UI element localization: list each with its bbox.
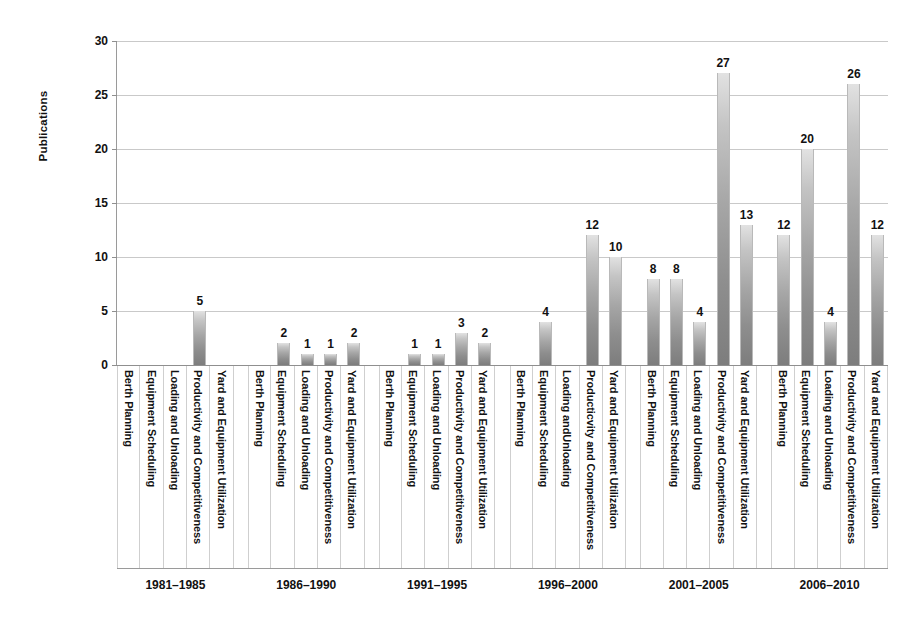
category-cell: Loading andUnloading bbox=[556, 366, 579, 568]
category-tick-label: Berth Planning bbox=[515, 370, 527, 447]
y-tick-label: 30 bbox=[95, 34, 108, 48]
category-cell: Yard and Equipment Utilization bbox=[603, 366, 626, 568]
category-cell: Equipment Scheduling bbox=[795, 366, 818, 568]
bar: 20 bbox=[801, 149, 814, 365]
bar: 8 bbox=[670, 279, 683, 365]
bar-value-label: 8 bbox=[673, 262, 680, 276]
period-label: 2006–2010 bbox=[771, 578, 888, 592]
category-cell: Berth Planning bbox=[117, 366, 140, 568]
category-cell: Berth Planning bbox=[379, 366, 402, 568]
y-tick-label: 15 bbox=[95, 196, 108, 210]
bar-value-label: 8 bbox=[650, 262, 657, 276]
y-tick-mark bbox=[112, 257, 117, 258]
category-tick-label: Producticvity and Competitiveness bbox=[585, 370, 597, 550]
y-tick-label: 5 bbox=[101, 304, 108, 318]
publications-bar-chart: Publications 051015202530 52112113241210… bbox=[0, 0, 898, 633]
category-tick-label: Loading andUnloading bbox=[561, 370, 573, 487]
category-cell: Loading and Unloading bbox=[425, 366, 448, 568]
bar-value-label: 4 bbox=[542, 305, 549, 319]
bar-value-label: 4 bbox=[827, 305, 834, 319]
bar-value-label: 2 bbox=[351, 326, 358, 340]
gridline bbox=[117, 41, 888, 42]
category-tick-label: Productivity and Competitiveness bbox=[716, 370, 728, 544]
bar: 12 bbox=[871, 235, 884, 365]
category-cell: Berth Planning bbox=[640, 366, 663, 568]
bar: 5 bbox=[193, 311, 206, 365]
category-tick-label: Loading and Unloading bbox=[431, 370, 443, 490]
bar: 12 bbox=[777, 235, 790, 365]
category-tick-label: Equipment Scheduling bbox=[800, 370, 812, 487]
bar: 3 bbox=[455, 333, 468, 365]
bar-value-label: 1 bbox=[411, 337, 418, 351]
category-tick-label: Yard and Equipment Utilization bbox=[870, 370, 882, 529]
period-label: 1986–1990 bbox=[248, 578, 365, 592]
category-tick-label: Berth Planning bbox=[384, 370, 396, 447]
category-tick-label: Berth Planning bbox=[646, 370, 658, 447]
bar: 1 bbox=[324, 354, 337, 365]
category-cell: Loading and Unloading bbox=[687, 366, 710, 568]
category-cell: Yard and Equipment Utilization bbox=[472, 366, 495, 568]
category-tick-label: Equipment Scheduling bbox=[146, 370, 158, 487]
bar: 4 bbox=[693, 322, 706, 365]
y-tick-mark bbox=[112, 95, 117, 96]
bar-value-label: 4 bbox=[696, 305, 703, 319]
category-label-band: Berth PlanningEquipment SchedulingLoadin… bbox=[117, 366, 888, 568]
period-label: 1981–1985 bbox=[117, 578, 234, 592]
bar-value-label: 1 bbox=[327, 337, 334, 351]
category-tick-label: Yard and Equipment Utilization bbox=[216, 370, 228, 529]
category-cell: Berth Planning bbox=[510, 366, 533, 568]
bar-value-label: 1 bbox=[435, 337, 442, 351]
category-tick-label: Berth Planning bbox=[123, 370, 135, 447]
y-tick-label: 10 bbox=[95, 250, 108, 264]
bar-value-label: 12 bbox=[871, 218, 884, 232]
bar: 12 bbox=[586, 235, 599, 365]
bar-value-label: 10 bbox=[609, 240, 622, 254]
bar-value-label: 2 bbox=[281, 326, 288, 340]
category-cell: Producticvity and Competitiveness bbox=[580, 366, 603, 568]
category-cell: Yard and Equipment Utilization bbox=[734, 366, 757, 568]
category-cell: Equipment Scheduling bbox=[140, 366, 163, 568]
category-tick-label: Productivity and Competitiveness bbox=[454, 370, 466, 544]
category-cell: Loading and Unloading bbox=[164, 366, 187, 568]
bar: 8 bbox=[647, 279, 660, 365]
bar: 13 bbox=[740, 225, 753, 365]
category-cell: Productivity and Competitiveness bbox=[841, 366, 864, 568]
category-tick-label: Loading and Unloading bbox=[300, 370, 312, 490]
label-band-bottom-rule bbox=[117, 568, 888, 569]
bar: 2 bbox=[347, 343, 360, 365]
category-cell: Equipment Scheduling bbox=[664, 366, 687, 568]
category-cell: Yard and Equipment Utilization bbox=[210, 366, 233, 568]
bar-value-label: 12 bbox=[777, 218, 790, 232]
category-cell: Productivity and Competitiveness bbox=[449, 366, 472, 568]
category-cell: Berth Planning bbox=[248, 366, 271, 568]
plot-area: 051015202530 521121132412108842713122042… bbox=[117, 41, 888, 365]
category-tick-label: Equipment Scheduling bbox=[669, 370, 681, 487]
bar-value-label: 12 bbox=[586, 218, 599, 232]
bar-value-label: 20 bbox=[801, 132, 814, 146]
category-tick-label: Productivity and Competitiveness bbox=[192, 370, 204, 544]
bar: 26 bbox=[847, 84, 860, 365]
gridline bbox=[117, 257, 888, 258]
category-tick-label: Productivity and Competitiveness bbox=[323, 370, 335, 544]
category-cell: Productivity and Competitiveness bbox=[710, 366, 733, 568]
bar-value-label: 1 bbox=[304, 337, 311, 351]
gridline bbox=[117, 203, 888, 204]
category-tick-label: Equipment Scheduling bbox=[407, 370, 419, 487]
category-tick-label: Yard and Equipment Utilization bbox=[346, 370, 358, 529]
y-tick-mark bbox=[112, 149, 117, 150]
period-label: 1996–2000 bbox=[510, 578, 627, 592]
bar-value-label: 3 bbox=[458, 316, 465, 330]
category-tick-label: Loading and Unloading bbox=[692, 370, 704, 490]
gridline bbox=[117, 149, 888, 150]
y-tick-label: 25 bbox=[95, 88, 108, 102]
y-tick-mark bbox=[112, 203, 117, 204]
category-tick-label: Productivity and Competitiveness bbox=[846, 370, 858, 544]
category-tick-label: Berth Planning bbox=[254, 370, 266, 447]
bar-value-label: 26 bbox=[847, 67, 860, 81]
category-tick-label: Yard and Equipment Utilization bbox=[477, 370, 489, 529]
bar: 2 bbox=[478, 343, 491, 365]
period-label: 2001–2005 bbox=[640, 578, 757, 592]
bar: 10 bbox=[609, 257, 622, 365]
category-cell: Berth Planning bbox=[771, 366, 794, 568]
y-tick-mark bbox=[112, 311, 117, 312]
